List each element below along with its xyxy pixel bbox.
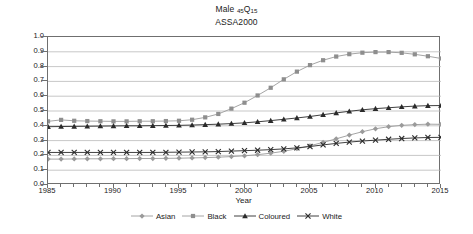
y-axis-tick-mark (41, 169, 47, 170)
y-axis-tick-mark (41, 36, 47, 37)
chart-title-main: Male (216, 4, 235, 14)
x-axis-tick-mark (86, 184, 87, 187)
x-axis-tick-mark (296, 184, 297, 187)
series-asian (48, 122, 441, 162)
x-axis-tick-mark (99, 184, 100, 187)
chart-figure: Male 45Q15 ASSA2000 0.00.10.20.30.40.50.… (0, 0, 473, 234)
x-axis-tick-mark (270, 184, 271, 187)
legend-marker-diamond-icon (131, 211, 153, 221)
legend-label: Asian (156, 212, 176, 221)
y-axis-tick-mark (41, 66, 47, 67)
x-axis-tick-mark (414, 184, 415, 187)
series-coloured (48, 103, 441, 129)
chart-title-q: Q (244, 4, 251, 14)
series-black (48, 50, 441, 123)
y-axis-tick-mark (41, 80, 47, 81)
legend-item-black[interactable]: Black (182, 211, 226, 221)
x-axis-tick-mark (309, 184, 310, 188)
legend-marker-triangle-icon (234, 211, 256, 221)
x-axis-tick-mark (113, 184, 114, 188)
chart-title-subscript-15: 15 (251, 7, 258, 14)
x-axis-tick-mark (440, 184, 441, 188)
x-axis-tick-mark (126, 184, 127, 187)
legend-marker-cross-icon (297, 211, 319, 221)
x-axis-tick-mark (361, 184, 362, 187)
x-axis-label: Year (47, 196, 440, 205)
x-axis-tick-mark (244, 184, 245, 188)
y-axis-tick-mark (41, 110, 47, 111)
y-axis-tick-mark (41, 125, 47, 126)
y-axis-tick-mark (41, 95, 47, 96)
legend-item-white[interactable]: White (297, 211, 342, 221)
x-axis-tick-mark (47, 184, 48, 188)
x-axis-tick-mark (139, 184, 140, 187)
x-axis-tick-mark (348, 184, 349, 187)
y-axis-tick-mark (41, 51, 47, 52)
data-series-layer (48, 37, 441, 185)
x-axis-tick-mark (375, 184, 376, 188)
x-axis-tick-mark (60, 184, 61, 187)
x-axis-tick-mark (165, 184, 166, 187)
chart-legend: AsianBlackColouredWhite (0, 211, 473, 221)
x-axis-tick-mark (427, 184, 428, 187)
chart-title: Male 45Q15 (0, 4, 473, 17)
y-axis-tick-mark (41, 154, 47, 155)
x-axis-tick-mark (388, 184, 389, 187)
x-axis-tick-mark (204, 184, 205, 187)
x-axis-tick-mark (73, 184, 74, 187)
x-axis-tick-mark (335, 184, 336, 187)
x-axis-tick-mark (322, 184, 323, 187)
series-white (48, 135, 441, 155)
legend-label: Coloured (259, 212, 291, 221)
x-axis-tick-mark (217, 184, 218, 187)
x-axis-tick-mark (283, 184, 284, 187)
x-axis-tick-mark (401, 184, 402, 187)
x-axis-tick-mark (178, 184, 179, 188)
legend-item-asian[interactable]: Asian (131, 211, 176, 221)
plot-area (47, 36, 440, 184)
legend-marker-square-icon (182, 211, 204, 221)
legend-item-coloured[interactable]: Coloured (234, 211, 291, 221)
x-axis-tick-mark (230, 184, 231, 187)
x-axis-tick-mark (191, 184, 192, 187)
chart-title-block: Male 45Q15 ASSA2000 (0, 4, 473, 27)
chart-title-subscript-45: 45 (237, 7, 244, 14)
x-axis-tick-mark (257, 184, 258, 187)
chart-subtitle: ASSA2000 (0, 17, 473, 28)
legend-label: Black (207, 212, 226, 221)
x-axis-tick-mark (152, 184, 153, 187)
y-axis-tick-mark (41, 140, 47, 141)
legend-label: White (322, 212, 342, 221)
